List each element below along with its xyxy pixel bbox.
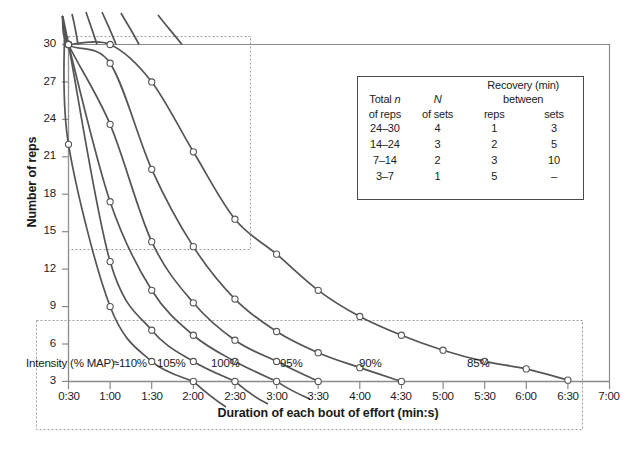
x-tick-3-30: 3:30 (298, 390, 338, 402)
data-point (273, 251, 279, 257)
legend-blank-2 (412, 77, 464, 91)
data-point (190, 332, 196, 338)
data-point (107, 199, 113, 205)
legend-cell-rec-reps: 3 (463, 152, 525, 168)
legend-cell-sets: 4 (412, 120, 464, 136)
data-point (107, 259, 113, 265)
annotation-85: 85% (467, 357, 489, 369)
legend-row: 7–14 2 3 10 (358, 152, 583, 168)
legend-header-row-3: of reps of sets reps sets (358, 105, 583, 120)
x-tick-5-00: 5:00 (423, 390, 463, 402)
curve-head-3 (121, 13, 139, 45)
x-axis (68, 381, 610, 389)
legend-row: 24–30 4 1 3 (358, 120, 583, 136)
data-point (273, 328, 279, 334)
legend-between-header: between (463, 91, 583, 105)
y-tick-9: 9 (30, 299, 56, 311)
y-tick-12: 12 (30, 262, 56, 274)
legend-cell-total-reps: 3–7 (358, 168, 412, 184)
x-tick-6-00: 6:00 (506, 390, 546, 402)
legend-cell-rec-sets: 10 (525, 152, 583, 168)
legend-grid: Recovery (min) Total n N between of reps… (358, 77, 583, 184)
legend-table: Recovery (min) Total n N between of reps… (357, 76, 584, 200)
series-curve-2 (63, 17, 277, 382)
x-tick-4-00: 4:00 (340, 390, 380, 402)
data-point (149, 79, 155, 85)
legend-cell-rec-sets: – (525, 168, 583, 184)
y-axis (62, 44, 69, 381)
curve-head-1 (86, 12, 97, 45)
legend-cell-total-reps: 14–24 (358, 136, 412, 152)
data-point (65, 141, 71, 147)
x-tick-0-30: 0:30 (49, 390, 89, 402)
data-point (273, 358, 279, 364)
legend-blank-1 (358, 77, 412, 91)
series-curves (63, 12, 568, 407)
x-tick-1-00: 1:00 (90, 390, 130, 402)
series-curve-0 (64, 31, 194, 382)
legend-cell-rec-reps: 1 (463, 120, 525, 136)
legend-cell-total-reps: 7–14 (358, 152, 412, 168)
y-tick-6: 6 (30, 337, 56, 349)
legend-header-row-1: Recovery (min) (358, 77, 583, 91)
data-point (107, 303, 113, 309)
legend-cell-rec-sets: 3 (525, 120, 583, 136)
annotation-90: 90% (359, 357, 381, 369)
x-tick-2-30: 2:30 (215, 390, 255, 402)
data-point (190, 300, 196, 306)
intensity-label: Intensity (% MAP) (26, 357, 115, 369)
curve-head-0 (72, 14, 78, 45)
data-point (315, 287, 321, 293)
data-point (107, 121, 113, 127)
data-point (357, 313, 363, 319)
data-point (398, 332, 404, 338)
x-tick-7-00: 7:00 (589, 390, 629, 402)
legend-reps-header: reps (463, 105, 525, 120)
data-point (149, 239, 155, 245)
y-axis-title: Number of reps (25, 122, 39, 242)
data-point (440, 347, 446, 353)
chart-canvas (0, 0, 641, 455)
legend-cell-sets: 2 (412, 152, 464, 168)
data-point (149, 358, 155, 364)
x-tick-5-30: 5:30 (465, 390, 505, 402)
data-point (149, 166, 155, 172)
legend-header-row-2: Total n N between (358, 91, 583, 105)
data-point (149, 327, 155, 333)
curve-head-4 (158, 15, 182, 45)
y-tick-3: 3 (30, 374, 56, 386)
data-point (65, 41, 71, 47)
data-point (190, 244, 196, 250)
data-point (398, 378, 404, 384)
data-point (190, 358, 196, 364)
series-curve-3 (63, 17, 319, 382)
legend-recovery-header: Recovery (min) (463, 77, 583, 91)
series-curve-4 (63, 17, 402, 382)
data-point (149, 287, 155, 293)
legend-cell-sets: 1 (412, 168, 464, 184)
y-tick-27: 27 (30, 75, 56, 87)
x-tick-6-30: 6:30 (548, 390, 588, 402)
annotation-100: 100% (211, 357, 240, 369)
data-point (107, 60, 113, 66)
chart-figure: 30 27 24 21 18 15 12 9 6 3 0:30 1:00 1:3… (0, 0, 641, 455)
data-point (232, 378, 238, 384)
data-point (232, 296, 238, 302)
data-point (315, 378, 321, 384)
y-tick-30: 30 (30, 37, 56, 49)
legend-N-header: N (412, 91, 464, 105)
legend-cell-rec-sets: 5 (525, 136, 583, 152)
x-axis-title: Duration of each bout of effort (min:s) (178, 406, 478, 420)
legend-row: 3–7 1 5 – (358, 168, 583, 184)
x-tick-4-30: 4:30 (381, 390, 421, 402)
data-point (315, 350, 321, 356)
series-curve-1 (63, 17, 235, 382)
annotation-110: ≈110% (113, 357, 147, 369)
data-point (107, 41, 113, 47)
legend-cell-rec-reps: 2 (463, 136, 525, 152)
legend-of-sets-header: of sets (412, 105, 464, 120)
data-point (190, 149, 196, 155)
legend-cell-rec-reps: 5 (463, 168, 525, 184)
x-tick-1-30: 1:30 (132, 390, 172, 402)
data-point (523, 366, 529, 372)
